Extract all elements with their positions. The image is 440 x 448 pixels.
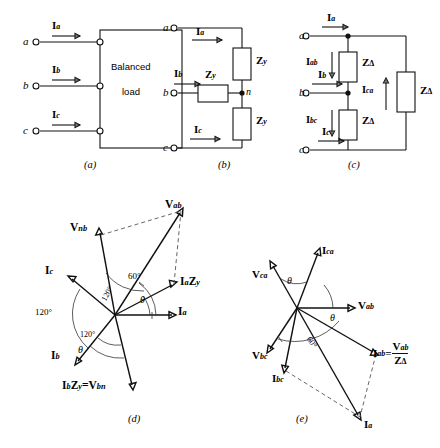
panel-d-phasor-Vab: Vab bbox=[165, 199, 182, 211]
panel-c-line-current-c: Ic bbox=[322, 126, 330, 137]
panel-a-current-a: Ia bbox=[52, 20, 60, 31]
panel-c-phase-current-ab: Iab bbox=[306, 57, 318, 68]
panel-d-angle-60: 60° bbox=[128, 272, 141, 281]
panel-e-phasor-Ia: Ia bbox=[364, 419, 372, 430]
panel-a-caption: (a) bbox=[84, 160, 96, 171]
panel-a-terminal-b: b bbox=[23, 80, 29, 91]
panel-c-caption: (c) bbox=[348, 160, 360, 171]
panel-d-phasor-Ic: Ic bbox=[45, 265, 53, 277]
panel-e-angle-theta-upper: θ bbox=[287, 276, 292, 286]
panel-e-phasor-Ibc: Ibc bbox=[272, 373, 284, 384]
panel-c-impedance-2: ZΔ bbox=[362, 115, 374, 126]
panel-a-current-b: Ib bbox=[52, 64, 60, 75]
figure-root: a b c Ia Ib Ic Balanced load (a) a b bbox=[0, 0, 440, 448]
panel-d-graphics bbox=[20, 185, 270, 415]
panel-b-caption: (b) bbox=[218, 160, 230, 171]
panel-a-terminal-c: c bbox=[23, 125, 28, 136]
panel-c-terminal-b: b bbox=[299, 87, 305, 98]
panel-c-line-current-a: Ia bbox=[327, 12, 335, 23]
panel-e-phasor-Vab: Vab bbox=[358, 300, 374, 311]
panel-b-terminal-c: c bbox=[163, 142, 168, 153]
panel-a-box-label-line1: Balanced bbox=[111, 62, 151, 72]
panel-b-impedance-2: Zy bbox=[205, 69, 216, 80]
panel-d-phasor-Vnb: Vnb bbox=[70, 222, 87, 234]
panel-d-angle-120-left: 120° bbox=[35, 308, 52, 317]
panel-b-current-c: Ic bbox=[194, 124, 202, 135]
panel-d-phasor-Ia: Ia bbox=[178, 306, 187, 318]
panel-d-angle-theta-lower: θ bbox=[78, 345, 83, 355]
panel-c-terminal-a: a bbox=[299, 30, 305, 41]
panel-c-terminal-c: c bbox=[299, 144, 304, 155]
panel-a-current-c: Ic bbox=[52, 109, 60, 120]
panel-c-phase-current-ca: Ica bbox=[362, 85, 373, 96]
panel-e-angle-theta-lower: θ bbox=[330, 313, 335, 323]
panel-e-phasor-Ica: Ica bbox=[322, 245, 334, 256]
panel-d-product-IaZy: IaZy bbox=[180, 276, 200, 288]
panel-d-phasor-Ib: Ib bbox=[51, 350, 60, 362]
panel-e-ratio-denominator: ZΔ bbox=[394, 354, 406, 367]
panel-d-angle-120-bottom: 120° bbox=[80, 331, 95, 339]
panel-e-phasor-Vca: Vca bbox=[252, 269, 267, 280]
panel-b-current-b: Ib bbox=[174, 68, 182, 79]
panel-b-current-a: Ia bbox=[196, 26, 204, 37]
panel-c-phase-current-bc: Ibc bbox=[306, 115, 317, 126]
panel-e-ratio-label: Iab= Vab ZΔ bbox=[373, 340, 408, 366]
panel-c-line-current-b: Ib bbox=[318, 69, 326, 80]
panel-b-terminal-b: b bbox=[163, 87, 169, 98]
panel-b-impedance-1: Zy bbox=[256, 55, 267, 66]
panel-b-terminal-a: a bbox=[163, 22, 169, 33]
panel-d-angle-theta-upper: θ bbox=[140, 295, 145, 305]
panel-b-impedance-3: Zy bbox=[256, 115, 267, 126]
panel-c-impedance-1: ZΔ bbox=[362, 57, 374, 68]
panel-d-caption: (d) bbox=[128, 414, 140, 425]
panel-a-terminal-a: a bbox=[23, 36, 29, 47]
panel-e-phasor-Vbc: Vbc bbox=[252, 350, 267, 361]
panel-e-graphics bbox=[250, 235, 440, 448]
panel-a-box-label-line2: load bbox=[122, 87, 140, 97]
panel-b-neutral-label: n bbox=[246, 87, 251, 97]
panel-d-product-IbZy-Vbn: IbZy=Vbn bbox=[62, 380, 106, 392]
panel-e-caption: (e) bbox=[296, 414, 308, 425]
panel-e-ratio-numerator: Vab bbox=[392, 340, 408, 353]
panel-c-impedance-3: ZΔ bbox=[420, 85, 432, 96]
